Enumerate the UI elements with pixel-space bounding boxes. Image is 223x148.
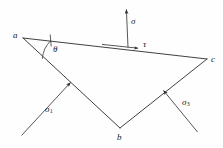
stress-diagram-figure: a b c σ τ σ1 σ3 θ bbox=[0, 0, 223, 148]
vertex-label-b: b bbox=[117, 133, 122, 142]
vertex-label-c: c bbox=[211, 55, 215, 64]
angle-arc-theta bbox=[42, 41, 50, 59]
diagram-canvas bbox=[0, 0, 223, 148]
edge-bc bbox=[120, 59, 207, 128]
angle-tick-mark bbox=[50, 35, 51, 47]
tau-shear-label: τ bbox=[143, 40, 146, 49]
sigma-1-subscript: 1 bbox=[49, 108, 52, 114]
sigma-3-label: σ3 bbox=[182, 98, 190, 107]
edge-ab bbox=[23, 38, 120, 128]
sigma-3-subscript: 3 bbox=[186, 101, 189, 107]
sigma-3-arrow bbox=[164, 91, 198, 133]
sigma-normal-arrow bbox=[126, 10, 128, 48]
sigma-normal-label: σ bbox=[131, 17, 135, 26]
angle-label-theta: θ bbox=[53, 45, 57, 54]
vertex-label-a: a bbox=[13, 31, 18, 40]
sigma-1-label: σ1 bbox=[45, 105, 53, 114]
